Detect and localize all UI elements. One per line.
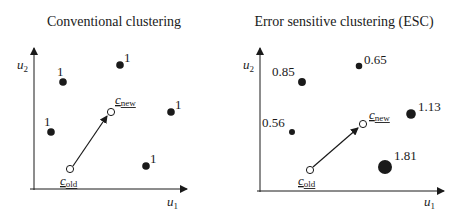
data-point-label: 1: [175, 97, 182, 112]
data-point-label: 1: [150, 151, 157, 166]
data-point-label: 1: [44, 114, 51, 129]
x-axis-label: u1: [167, 194, 178, 211]
centroid-new-label: cnew: [115, 92, 136, 108]
centroid-new-marker: [359, 120, 366, 127]
centroid-old-label: cold: [60, 173, 78, 189]
panel-conventional: Conventional clustering u2 u1 11111 cold…: [17, 14, 187, 211]
data-point-label: 1: [124, 50, 131, 65]
data-point: [298, 78, 306, 86]
figure: Conventional clustering u2 u1 11111 cold…: [0, 0, 463, 216]
panel-esc: Error sensitive clustering (ESC) u2 u1 0…: [243, 14, 444, 211]
data-point: [167, 108, 175, 116]
centroid-old-marker: [66, 165, 73, 172]
data-point: [116, 61, 124, 69]
data-point-label: 1.81: [394, 148, 417, 163]
data-point-label: 0.85: [272, 64, 295, 79]
data-point-label: 1: [57, 64, 64, 79]
centroid-old-marker: [306, 166, 313, 173]
x-axis-label: u1: [424, 194, 435, 211]
data-point: [289, 129, 295, 135]
data-point-label: 0.65: [364, 52, 387, 67]
data-point-label: 1.13: [418, 99, 441, 114]
centroid-new-label: cnew: [369, 107, 390, 123]
y-axis-label: u2: [243, 57, 254, 74]
data-point: [142, 162, 150, 170]
data-point: [59, 78, 67, 86]
data-point: [378, 160, 392, 174]
centroid-new-marker: [107, 108, 114, 115]
data-point: [406, 109, 416, 119]
y-axis-label: u2: [17, 57, 28, 74]
data-points: 0.850.650.561.131.81: [262, 52, 441, 174]
centroid-old-label: cold: [298, 173, 316, 189]
data-point: [356, 63, 363, 70]
panel-title: Error sensitive clustering (ESC): [254, 14, 434, 30]
data-point-label: 0.56: [262, 115, 285, 130]
data-point: [47, 128, 55, 136]
centroid-shift-arrow: [73, 116, 107, 166]
panel-title: Conventional clustering: [47, 14, 181, 29]
centroid-shift-arrow: [313, 128, 358, 167]
